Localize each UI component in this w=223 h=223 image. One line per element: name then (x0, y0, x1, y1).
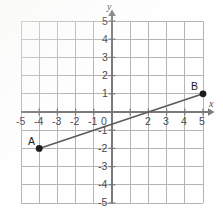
coordinate-grid-svg (0, 0, 223, 223)
y-tick-label-neg2: -2 (98, 143, 107, 154)
point-b-label: B (191, 81, 198, 92)
x-tick-label-neg5: -5 (16, 116, 25, 127)
x-tick-label-pos4: 4 (181, 116, 187, 127)
x-tick-label-neg4: -4 (34, 116, 43, 127)
y-tick-label-neg1: -1 (98, 125, 107, 136)
y-axis-name: y (107, 2, 111, 12)
x-tick-label-pos5: 5 (199, 116, 205, 127)
y-tick-label-neg5: -5 (98, 197, 107, 208)
y-tick-label-neg4: -4 (98, 179, 107, 190)
y-tick-label-pos1: 1 (102, 88, 108, 99)
point-a-dot (36, 145, 43, 152)
x-tick-label-neg2: -2 (70, 116, 79, 127)
y-tick-label-pos5: 5 (102, 16, 108, 27)
x-tick-label-pos2: 2 (145, 116, 151, 127)
segment-ab (39, 94, 203, 149)
y-tick-label-pos3: 3 (102, 52, 108, 63)
y-tick-label-pos4: 4 (102, 34, 108, 45)
x-tick-label-pos3: 3 (163, 116, 169, 127)
y-axis (108, 10, 116, 204)
x-tick-label-neg3: -3 (52, 116, 61, 127)
y-tick-label-neg3: -3 (98, 161, 107, 172)
point-a-label: A (28, 136, 35, 147)
coordinate-plane-figure: -5 -4 -3 -2 -1 2 3 4 5 0 5 4 3 2 1 -1 -2… (0, 0, 223, 223)
x-tick-label-neg1: -1 (88, 116, 97, 127)
y-tick-label-pos2: 2 (102, 70, 108, 81)
point-b-dot (200, 90, 207, 97)
x-axis-name: x (209, 99, 213, 109)
